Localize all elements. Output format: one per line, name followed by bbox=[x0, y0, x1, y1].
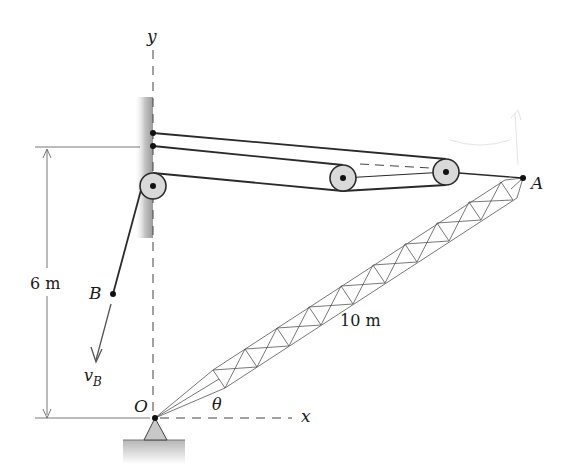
point-O bbox=[152, 415, 158, 421]
point-O-label: O bbox=[134, 396, 148, 416]
boom-length-label: 10 m bbox=[340, 311, 381, 330]
velocity-arrowhead bbox=[91, 347, 102, 362]
boom-truss bbox=[155, 178, 523, 418]
point-A-label: A bbox=[529, 173, 543, 193]
pulley-right bbox=[433, 159, 459, 185]
cables bbox=[113, 133, 523, 294]
point-A bbox=[520, 175, 526, 181]
cable-anchor-second bbox=[150, 143, 156, 149]
point-B-label: B bbox=[88, 283, 102, 303]
faint-scribble bbox=[450, 110, 521, 165]
pin-support bbox=[144, 418, 167, 440]
wall bbox=[135, 97, 153, 238]
cable-anchor-top bbox=[150, 130, 156, 136]
x-axis-label: x bbox=[301, 406, 311, 426]
pulley-middle bbox=[330, 165, 356, 191]
height-dimension-label: 6 m bbox=[30, 274, 60, 293]
pulley-left bbox=[140, 173, 166, 199]
point-B bbox=[110, 291, 116, 297]
diagram-canvas: y x 6 m 10 m bbox=[0, 0, 582, 474]
pulley-dashed-line bbox=[360, 164, 430, 168]
y-axis-label: y bbox=[146, 26, 157, 46]
ground bbox=[123, 440, 185, 464]
angle-theta-label: θ bbox=[212, 395, 222, 414]
velocity-arrow bbox=[96, 304, 111, 360]
velocity-label: vB bbox=[84, 366, 102, 389]
